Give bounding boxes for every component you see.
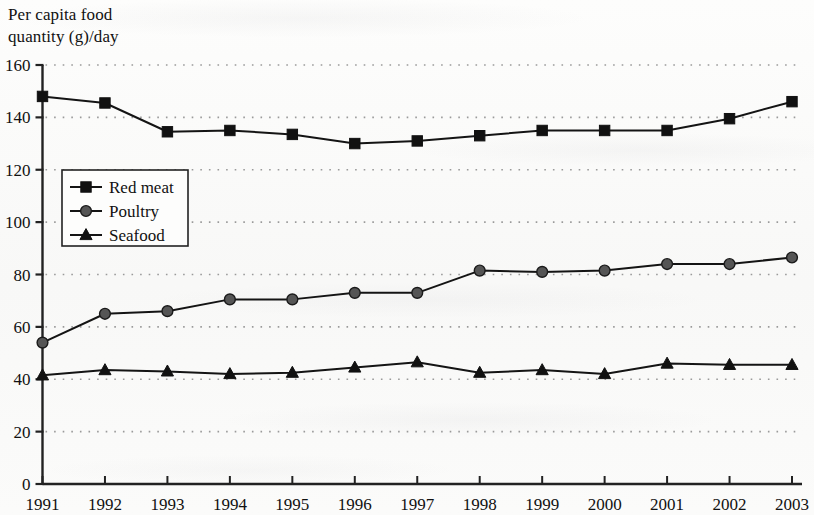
data-point-marker-square (724, 113, 734, 123)
x-axis-tick-label: 1992 (88, 495, 122, 514)
data-point-marker-circle (100, 308, 111, 319)
series-line (43, 257, 793, 342)
data-point-marker-circle (349, 287, 360, 298)
x-axis-tick-label: 2000 (588, 495, 622, 514)
data-point-marker-square (37, 91, 47, 101)
y-axis-tick-label: 80 (14, 266, 31, 285)
y-axis-tick-label: 20 (14, 423, 31, 442)
series-poultry (37, 252, 797, 348)
data-point-marker-square (350, 138, 360, 148)
series-seafood (36, 356, 798, 380)
data-point-marker-square (599, 125, 609, 135)
data-point-marker-circle (599, 265, 610, 276)
data-point-marker-circle (537, 266, 548, 277)
x-axis-tick-label: 1999 (525, 495, 559, 514)
data-point-marker-circle (474, 265, 485, 276)
data-point-marker-circle (287, 294, 298, 305)
data-point-marker-square (787, 96, 797, 106)
x-axis-tick-label: 2001 (650, 495, 684, 514)
y-axis-tick-label: 60 (14, 318, 31, 337)
data-point-marker-circle (81, 206, 92, 217)
y-axis-tick-label: 0 (22, 475, 31, 494)
data-point-marker-square (662, 125, 672, 135)
data-point-marker-triangle (411, 356, 423, 367)
chart-plot-area: 020406080100120140160 199119921993199419… (0, 0, 814, 515)
data-point-marker-circle (37, 337, 48, 348)
data-point-marker-circle (724, 259, 735, 270)
gridlines (46, 65, 803, 432)
data-point-marker-square (162, 127, 172, 137)
data-point-marker-square (287, 129, 297, 139)
x-axis-tick-label: 2002 (713, 495, 747, 514)
chart-title-text: Per capita food quantity (g)/day (8, 5, 119, 46)
chart-legend: Red meatPoultrySeafood (62, 170, 188, 246)
y-axis: 020406080100120140160 (5, 56, 44, 494)
y-axis-tick-label: 40 (14, 370, 31, 389)
legend-item-label: Poultry (109, 202, 160, 221)
data-point-marker-square (225, 125, 235, 135)
legend-item-label: Red meat (109, 178, 174, 197)
data-point-marker-circle (412, 287, 423, 298)
legend-item-label: Seafood (109, 226, 165, 245)
x-axis-tick-label: 1994 (213, 495, 248, 514)
x-axis-tick-label: 1996 (338, 495, 372, 514)
x-axis-tick-label: 1991 (26, 495, 60, 514)
y-axis-tick-label: 100 (5, 213, 31, 232)
data-point-marker-square (412, 136, 422, 146)
y-axis-tick-label: 140 (5, 108, 31, 127)
data-point-marker-triangle (536, 364, 548, 375)
y-axis-tick-label: 120 (5, 161, 31, 180)
x-axis-tick-label: 1998 (463, 495, 497, 514)
data-point-marker-circle (162, 306, 173, 317)
data-point-marker-circle (224, 294, 235, 305)
line-chart: Per capita food quantity (g)/day 0204060… (0, 0, 814, 515)
chart-title: Per capita food quantity (g)/day (8, 4, 119, 48)
data-point-marker-circle (662, 259, 673, 270)
data-point-marker-circle (787, 252, 798, 263)
series-red-meat (37, 91, 797, 149)
x-axis-tick-label: 1993 (150, 495, 184, 514)
data-point-marker-square (81, 182, 91, 192)
x-axis: 1991199219931994199519961997199819992000… (26, 476, 810, 514)
data-point-marker-square (475, 131, 485, 141)
y-axis-tick-label: 160 (5, 56, 31, 75)
x-axis-tick-label: 1995 (275, 495, 309, 514)
x-axis-tick-label: 1997 (400, 495, 435, 514)
data-point-marker-square (537, 125, 547, 135)
data-point-marker-square (100, 98, 110, 108)
x-axis-tick-label: 2003 (775, 495, 809, 514)
